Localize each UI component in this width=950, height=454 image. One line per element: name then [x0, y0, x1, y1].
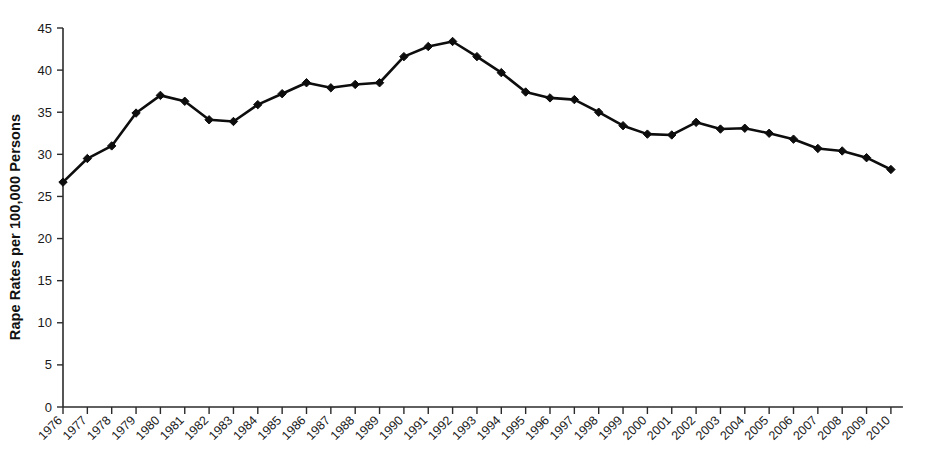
data-point-marker — [887, 165, 895, 173]
x-tick-label: 1988 — [328, 413, 358, 443]
data-point-marker — [643, 130, 651, 138]
x-tick-label: 1987 — [303, 413, 333, 443]
data-point-markers — [59, 37, 895, 186]
data-point-marker — [424, 42, 432, 50]
plot-area: 051015202530354045 197619771978197919801… — [0, 0, 950, 454]
data-point-marker — [838, 147, 846, 155]
x-tick-label: 1985 — [255, 413, 285, 443]
x-tick-label: 2008 — [815, 413, 845, 443]
x-tick-label: 2001 — [644, 413, 674, 443]
x-tick-label: 1983 — [206, 413, 236, 443]
x-tick-label: 1990 — [376, 413, 406, 443]
data-point-marker — [814, 144, 822, 152]
x-tick-label: 1977 — [60, 413, 90, 443]
x-tick-label: 1986 — [279, 413, 309, 443]
x-tick-label: 1992 — [425, 413, 455, 443]
y-tick-label: 45 — [38, 21, 52, 36]
x-tick-label: 1998 — [571, 413, 601, 443]
data-point-marker — [716, 125, 724, 133]
x-tick-label: 1978 — [84, 413, 114, 443]
x-tick-label: 1997 — [547, 413, 577, 443]
y-tick-label: 0 — [45, 400, 52, 415]
data-point-marker — [351, 80, 359, 88]
y-tick-label: 25 — [38, 189, 52, 204]
x-tick-label: 2007 — [790, 413, 820, 443]
y-tick-label: 15 — [38, 273, 52, 288]
data-point-marker — [546, 94, 554, 102]
y-tick-label: 5 — [45, 357, 52, 372]
y-tick-label: 20 — [38, 231, 52, 246]
x-tick-label: 1995 — [498, 413, 528, 443]
x-tick-label: 1980 — [133, 413, 163, 443]
y-tick-label: 30 — [38, 147, 52, 162]
y-tick-label: 35 — [38, 105, 52, 120]
x-tick-label: 1999 — [596, 413, 626, 443]
x-tick-label: 2005 — [742, 413, 772, 443]
x-tick-label: 1984 — [230, 413, 260, 443]
x-tick-label: 2003 — [693, 413, 723, 443]
x-tick-label: 1996 — [523, 413, 553, 443]
x-tick-label: 2010 — [863, 413, 893, 443]
data-point-marker — [765, 129, 773, 137]
data-point-marker — [302, 79, 310, 87]
data-point-marker — [741, 124, 749, 132]
x-tick-label: 2004 — [717, 413, 747, 443]
x-axis-ticks: 1976197719781979198019811982198319841985… — [36, 407, 893, 443]
x-tick-label: 1994 — [474, 413, 504, 443]
data-series-line — [63, 41, 891, 182]
data-point-marker — [862, 154, 870, 162]
x-tick-label: 1991 — [401, 413, 431, 443]
x-tick-label: 1993 — [450, 413, 480, 443]
x-tick-label: 1981 — [157, 413, 187, 443]
x-tick-label: 1989 — [352, 413, 382, 443]
y-tick-label: 40 — [38, 63, 52, 78]
y-axis-ticks: 051015202530354045 — [38, 21, 63, 415]
x-tick-label: 1976 — [36, 413, 66, 443]
y-tick-label: 10 — [38, 315, 52, 330]
x-tick-label: 2009 — [839, 413, 869, 443]
x-tick-label: 1982 — [182, 413, 212, 443]
x-tick-label: 2006 — [766, 413, 796, 443]
data-point-marker — [327, 84, 335, 92]
x-tick-label: 2000 — [620, 413, 650, 443]
x-tick-label: 1979 — [109, 413, 139, 443]
rape-rates-line-chart: Rape Rates per 100,000 Persons 051015202… — [0, 0, 950, 454]
data-point-marker — [278, 89, 286, 97]
x-tick-label: 2002 — [669, 413, 699, 443]
data-point-marker — [789, 135, 797, 143]
